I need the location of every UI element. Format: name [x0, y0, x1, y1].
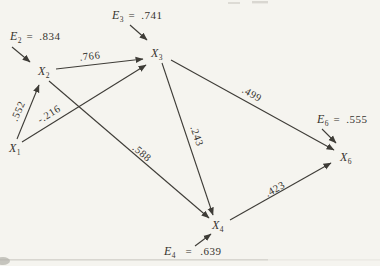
node-x3-letter: X [150, 46, 159, 60]
error-e4-letter: E [163, 244, 172, 258]
error-e2-subscript: 2 [18, 36, 22, 45]
error-e4-value: .639 [200, 245, 221, 257]
scan-top-smudge-2 [252, 1, 268, 3]
coef-x4-x6: .423 [263, 179, 287, 199]
node-x2: X2 [37, 64, 50, 80]
node-x6-subscript: 6 [348, 157, 352, 166]
node-x2-subscript: 2 [46, 71, 50, 80]
scanned-page: .552 -.216 .766 .588 .243 .499 .423 X1 X… [0, 0, 380, 266]
error-e4-subscript: 4 [172, 251, 176, 260]
error-e6-letter: E [316, 112, 325, 126]
path-diagram: .552 -.216 .766 .588 .243 .499 .423 X1 X… [0, 0, 380, 266]
error-e3-subscript: 3 [120, 15, 124, 24]
node-x6: X6 [339, 150, 352, 166]
error-e3-value: .741 [141, 9, 162, 21]
error-label-e2: E2=.834 [9, 29, 61, 45]
error-e2-value: .834 [39, 30, 60, 42]
error-e2-equals: = [27, 30, 34, 42]
scan-edge-line-faint [268, 259, 380, 260]
path-x3-x4 [162, 63, 213, 215]
nodes: X1 X2 X3 X4 X6 [8, 46, 352, 234]
error-e4-equals: = [186, 245, 193, 257]
error-e3-equals: = [129, 9, 136, 21]
error-label-e6: E6=.555 [316, 112, 368, 128]
node-x3: X3 [150, 46, 163, 62]
node-x1-subscript: 1 [17, 148, 21, 157]
scan-corner-smudge [0, 257, 10, 265]
node-x4: X4 [211, 218, 224, 234]
node-x4-subscript: 4 [220, 225, 224, 234]
coef-x3-x6: .499 [240, 84, 264, 104]
node-x1: X1 [8, 141, 21, 157]
node-x6-letter: X [339, 150, 348, 164]
error-e6-equals: = [334, 113, 341, 125]
path-x2-x4 [49, 81, 209, 218]
node-x2-letter: X [37, 64, 46, 78]
scan-top-smudge-1 [228, 2, 240, 4]
node-x3-subscript: 3 [159, 53, 163, 62]
error-arrow-e2 [12, 47, 30, 62]
error-arrow-e6 [322, 129, 336, 143]
path-x2-x3 [56, 59, 143, 69]
error-arrows [12, 25, 336, 246]
paths [17, 59, 334, 220]
error-labels: E2=.834 E3=.741 E6=.555 E4=.639 [9, 8, 368, 260]
node-x1-letter: X [8, 141, 17, 155]
error-e6-value: .555 [346, 113, 367, 125]
coef-x1-x3: -.216 [36, 103, 63, 126]
error-e2-letter: E [9, 29, 18, 43]
error-e3-letter: E [111, 8, 120, 22]
node-x4-letter: X [211, 218, 220, 232]
coef-x2-x3: .766 [79, 49, 101, 62]
scan-edge-line [0, 259, 268, 261]
error-label-e3: E3=.741 [111, 8, 163, 24]
error-e6-subscript: 6 [325, 119, 329, 128]
error-arrow-e3 [130, 25, 147, 40]
error-label-e4: E4=.639 [163, 244, 222, 260]
coef-x3-x4: .243 [188, 124, 205, 147]
